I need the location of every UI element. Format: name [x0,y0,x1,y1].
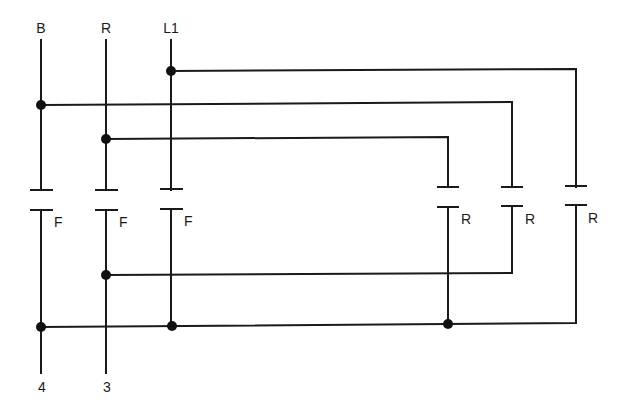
wiring-diagram: B R L1 F F F R R R 4 3 [0,0,622,408]
terminal-label-3: 3 [103,379,111,395]
wire-b-to-r2 [41,102,512,187]
junction-dot-r [101,134,111,144]
terminal-label-l1: L1 [163,20,179,36]
wire-l1-to-r3 [171,69,576,187]
wire-r2-return [106,206,512,275]
junction-dot-l1 [166,66,176,76]
junction-dot-b [36,100,46,110]
terminal-label-r: R [101,20,111,36]
wire-r-to-r1 [106,137,448,187]
junction-dot-r1-lower [443,319,453,329]
terminal-label-4: 4 [38,379,46,395]
contact-label-r2: R [525,211,535,227]
contact-label-f3: F [184,213,193,229]
contact-label-r3: R [588,210,598,226]
terminal-label-b: B [36,20,45,36]
junction-dot-l1-lower [167,321,177,331]
contact-label-f1: F [54,214,63,230]
contact-label-f2: F [119,214,128,230]
junction-dot-r-lower [101,270,111,280]
contact-label-r1: R [461,211,471,227]
junction-dot-b-lower [36,322,46,332]
